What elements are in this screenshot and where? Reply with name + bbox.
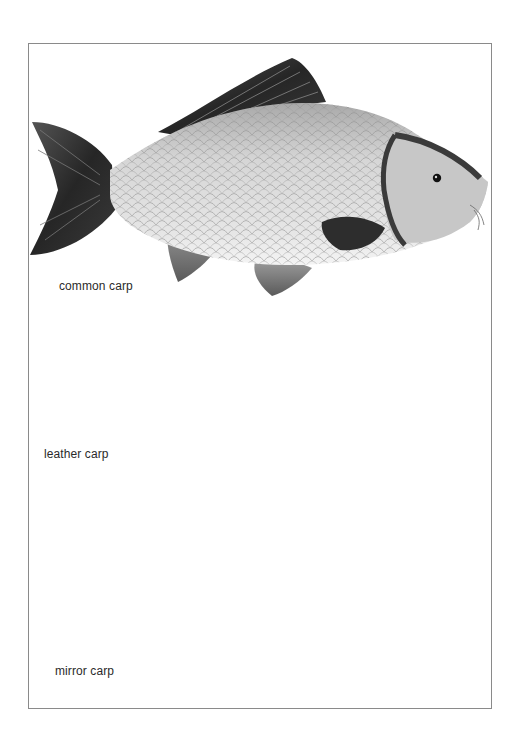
common-carp-head	[384, 135, 488, 243]
label-mirror-carp: mirror carp	[55, 664, 114, 678]
carp-illustrations	[0, 0, 520, 748]
label-common-carp: common carp	[59, 279, 133, 293]
common-carp-eye	[433, 174, 441, 182]
common-carp	[30, 58, 488, 296]
label-leather-carp: leather carp	[44, 447, 109, 461]
common-carp-anal-fin	[254, 261, 312, 296]
common-carp-tail	[30, 122, 115, 255]
